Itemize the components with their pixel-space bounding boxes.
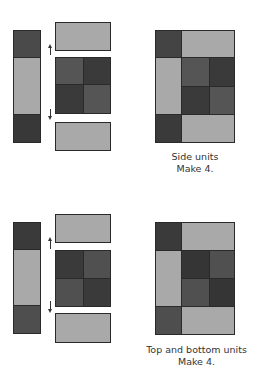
left-strip-top-square <box>13 30 41 58</box>
top-rectangle <box>55 214 111 243</box>
caption-line-1: Side units <box>145 151 245 163</box>
left-strip-middle-rectangle <box>13 249 41 306</box>
side-units-caption: Side units Make 4. <box>145 151 245 175</box>
left-strip-bottom-square <box>13 305 41 334</box>
left-strip-top-square <box>13 222 41 250</box>
top-bottom-units-caption: Top and bottom units Make 4. <box>140 344 253 367</box>
left-strip-bottom-square <box>13 114 41 143</box>
top-rectangle <box>55 22 111 51</box>
left-strip-middle-rectangle <box>13 57 41 115</box>
caption-line-1: Top and bottom units <box>140 344 253 356</box>
caption-line-2: Make 4. <box>145 163 245 175</box>
bottom-rectangle <box>55 122 111 151</box>
bottom-rectangle <box>55 313 111 343</box>
caption-line-2: Make 4. <box>140 356 253 367</box>
